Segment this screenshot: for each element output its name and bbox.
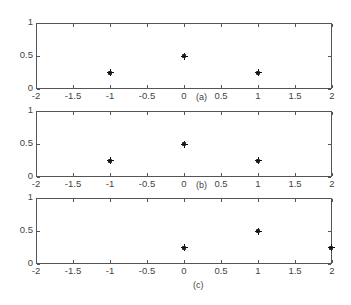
x-tick (36, 199, 37, 202)
x-tick (184, 112, 185, 115)
x-tick (221, 199, 222, 202)
x-tick-label: -1 (106, 266, 114, 276)
y-tick-label: 1 (28, 105, 33, 115)
y-tick (37, 177, 40, 178)
x-tick (110, 85, 111, 88)
y-tick-label: 0.5 (20, 50, 33, 60)
x-tick-label: 0 (181, 179, 186, 189)
data-point-star (255, 69, 262, 76)
x-tick-label: 0 (181, 266, 186, 276)
x-tick (110, 112, 111, 115)
x-tick (110, 260, 111, 263)
y-tick-label: 0 (28, 83, 33, 93)
x-tick (258, 199, 259, 202)
data-point-star (107, 157, 114, 164)
x-tick (258, 112, 259, 115)
x-tick (36, 112, 37, 115)
x-tick (295, 112, 296, 115)
x-tick (221, 260, 222, 263)
y-tick (37, 111, 40, 112)
x-tick-label: 2 (329, 91, 334, 101)
y-tick (328, 111, 331, 112)
x-tick (110, 24, 111, 27)
x-tick (332, 260, 333, 263)
x-tick (295, 173, 296, 176)
x-tick (73, 24, 74, 27)
x-tick (332, 199, 333, 202)
y-tick (37, 198, 40, 199)
y-tick (328, 89, 331, 90)
x-tick (221, 24, 222, 27)
x-tick (147, 199, 148, 202)
x-tick (147, 24, 148, 27)
x-tick-label: 1.5 (288, 266, 301, 276)
y-tick (37, 56, 40, 57)
y-tick-label: 0.5 (20, 138, 33, 148)
x-tick (295, 199, 296, 202)
x-tick (73, 173, 74, 176)
x-tick (295, 260, 296, 263)
x-tick (221, 85, 222, 88)
y-tick-label: 0 (28, 258, 33, 268)
x-tick-label: 0.5 (214, 179, 227, 189)
y-tick (328, 144, 331, 145)
x-tick-label: 1 (255, 91, 260, 101)
y-tick (37, 144, 40, 145)
x-tick-label: 1.5 (288, 91, 301, 101)
x-tick (147, 260, 148, 263)
x-tick-label: -1 (106, 179, 114, 189)
x-tick (184, 260, 185, 263)
y-tick (37, 231, 40, 232)
x-tick-label: 1 (255, 266, 260, 276)
x-tick (110, 199, 111, 202)
x-tick (332, 112, 333, 115)
subplot-caption: (a) (196, 92, 207, 102)
subplot-c (36, 198, 332, 264)
x-tick (295, 24, 296, 27)
x-tick-label: 0 (181, 91, 186, 101)
x-tick (110, 173, 111, 176)
data-point-star (181, 244, 188, 251)
y-tick-label: 1 (28, 192, 33, 202)
x-tick-label: 2 (329, 266, 334, 276)
y-tick (328, 264, 331, 265)
subplot-caption: (b) (196, 180, 207, 190)
x-tick (73, 85, 74, 88)
x-tick (332, 173, 333, 176)
x-tick (73, 112, 74, 115)
x-tick-label: -1.5 (65, 179, 81, 189)
y-tick-label: 1 (28, 17, 33, 27)
y-tick (328, 177, 331, 178)
x-tick-label: -2 (32, 91, 40, 101)
data-point-star (107, 69, 114, 76)
x-tick-label: -1 (106, 91, 114, 101)
x-tick (332, 24, 333, 27)
x-tick (184, 24, 185, 27)
x-tick (221, 112, 222, 115)
x-tick (258, 260, 259, 263)
x-tick-label: 2 (329, 179, 334, 189)
x-tick-label: -1.5 (65, 91, 81, 101)
x-tick (295, 85, 296, 88)
x-tick (221, 173, 222, 176)
y-tick (328, 231, 331, 232)
data-point-star (328, 244, 335, 251)
x-tick-label: 0.5 (214, 266, 227, 276)
x-tick (73, 199, 74, 202)
x-tick (147, 173, 148, 176)
data-point-star (255, 228, 262, 235)
x-tick (147, 85, 148, 88)
y-tick (328, 198, 331, 199)
x-tick-label: 0.5 (214, 91, 227, 101)
x-tick-label: 1.5 (288, 179, 301, 189)
x-tick-label: -0.5 (139, 179, 155, 189)
x-tick (73, 260, 74, 263)
y-tick (328, 23, 331, 24)
x-tick (258, 24, 259, 27)
y-tick-label: 0.5 (20, 225, 33, 235)
y-tick (37, 89, 40, 90)
x-tick-label: -2 (32, 179, 40, 189)
y-tick (328, 56, 331, 57)
x-tick-label: 1 (255, 179, 260, 189)
x-tick (184, 173, 185, 176)
